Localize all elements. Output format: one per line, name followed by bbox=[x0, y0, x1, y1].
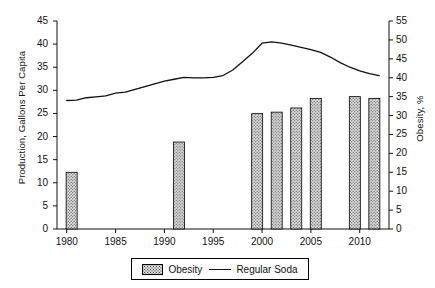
y-axis-left-tick-label: 5 bbox=[24, 200, 48, 211]
y-axis-left-tick-label: 10 bbox=[24, 177, 48, 188]
x-axis-tick-label: 1995 bbox=[193, 236, 233, 247]
y-axis-left-tick-label: 15 bbox=[24, 154, 48, 165]
bar-obesity bbox=[291, 108, 302, 229]
bar-obesity bbox=[369, 99, 380, 229]
legend-label-obesity: Obesity bbox=[168, 264, 202, 275]
legend-bar-swatch-icon bbox=[142, 264, 163, 275]
x-axis-tick-label: 2010 bbox=[340, 236, 380, 247]
y-axis-left-tick-label: 25 bbox=[24, 107, 48, 118]
legend-label-regular-soda: Regular Soda bbox=[236, 264, 297, 275]
bar-obesity bbox=[252, 114, 263, 229]
y-axis-right-tick-label: 0 bbox=[396, 223, 420, 234]
x-axis-tick-label: 1985 bbox=[96, 236, 136, 247]
x-axis-tick-label: 1990 bbox=[144, 236, 184, 247]
y-axis-right-tick-label: 45 bbox=[396, 53, 420, 64]
chart-figure: Production, Gallons Per Capita Obesity, … bbox=[0, 0, 435, 288]
bar-obesity bbox=[349, 97, 360, 229]
line-regular-soda bbox=[67, 42, 379, 101]
legend-line-swatch-icon bbox=[209, 269, 231, 270]
y-axis-left-tick-label: 40 bbox=[24, 38, 48, 49]
legend-item-regular-soda: Regular Soda bbox=[209, 264, 297, 275]
x-axis-tick-label: 1980 bbox=[47, 236, 87, 247]
y-axis-right-tick-label: 30 bbox=[396, 110, 420, 121]
bar-obesity bbox=[174, 142, 185, 229]
y-axis-left-tick-label: 20 bbox=[24, 131, 48, 142]
y-axis-left-tick-label: 30 bbox=[24, 84, 48, 95]
bar-obesity bbox=[271, 112, 282, 229]
y-axis-left-tick-label: 35 bbox=[24, 61, 48, 72]
y-axis-right-tick-label: 5 bbox=[396, 204, 420, 215]
y-axis-right-tick-label: 15 bbox=[396, 166, 420, 177]
y-axis-right-tick-label: 35 bbox=[396, 91, 420, 102]
y-axis-right-tick-label: 50 bbox=[396, 34, 420, 45]
y-axis-right-tick-label: 20 bbox=[396, 147, 420, 158]
bar-obesity bbox=[310, 99, 321, 229]
y-axis-right-tick-label: 10 bbox=[396, 185, 420, 196]
y-axis-left-tick-label: 45 bbox=[24, 15, 48, 26]
x-axis-tick-label: 2005 bbox=[291, 236, 331, 247]
y-axis-left-tick-label: 0 bbox=[24, 223, 48, 234]
x-axis-tick-label: 2000 bbox=[242, 236, 282, 247]
y-axis-right-tick-label: 25 bbox=[396, 128, 420, 139]
legend-item-obesity: Obesity bbox=[142, 264, 202, 275]
chart-legend: Obesity Regular Soda bbox=[131, 258, 309, 280]
y-axis-right-tick-label: 55 bbox=[396, 15, 420, 26]
bar-obesity bbox=[66, 172, 77, 229]
y-axis-right-tick-label: 40 bbox=[396, 72, 420, 83]
